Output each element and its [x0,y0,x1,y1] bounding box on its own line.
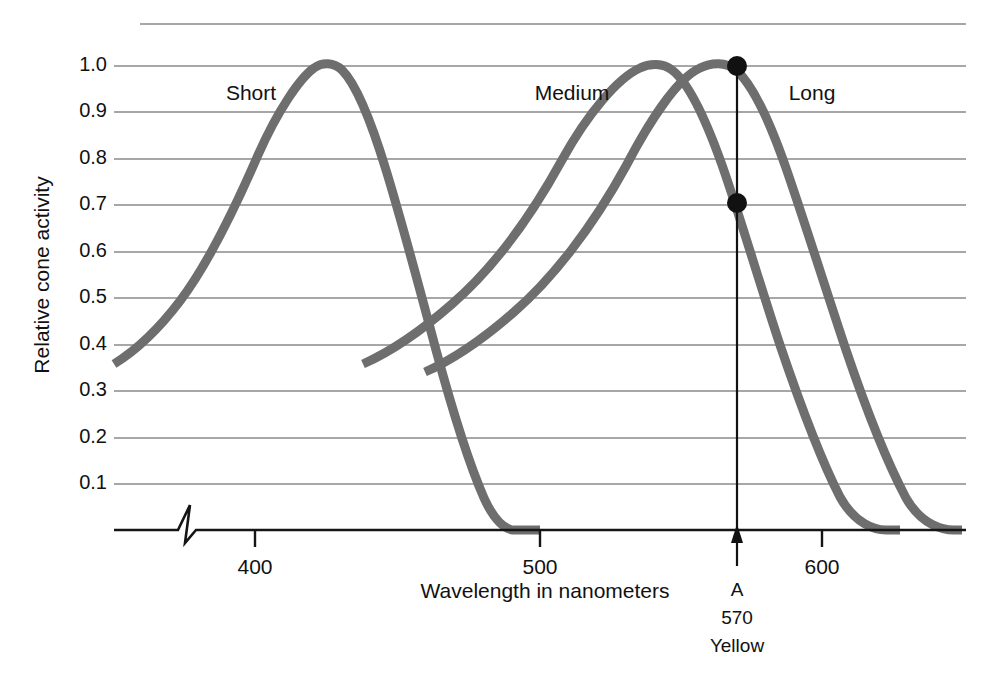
cone-activity-chart: 1.0 0.9 0.8 0.7 0.6 0.5 0.4 0.3 0.2 0.1 … [0,0,993,680]
curve-label-short: Short [226,81,276,104]
annotation-color-name: Yellow [710,635,765,656]
y-tick-label-0.3: 0.3 [79,378,107,400]
y-tick-label-1.0: 1.0 [79,53,107,75]
y-tick-label-0.2: 0.2 [79,425,107,447]
curve-medium [363,64,900,530]
curve-long [425,64,962,530]
y-tick-label-0.9: 0.9 [79,99,107,121]
y-tick-label-0.8: 0.8 [79,146,107,168]
y-tick-label-0.1: 0.1 [79,471,107,493]
x-axis-tick-labels: 400 500 600 [237,555,839,578]
y-tick-label-0.6: 0.6 [79,239,107,261]
y-tick-label-0.7: 0.7 [79,192,107,214]
marker-arrowhead-icon [731,524,743,543]
x-tick-label-600: 600 [804,555,839,578]
curve-label-medium: Medium [535,81,610,104]
y-tick-label-0.4: 0.4 [79,332,107,354]
y-axis-tick-labels: 1.0 0.9 0.8 0.7 0.6 0.5 0.4 0.3 0.2 0.1 [79,53,107,493]
curve-label-long: Long [789,81,836,104]
y-axis-title: Relative cone activity [30,176,53,374]
figure-container: 1.0 0.9 0.8 0.7 0.6 0.5 0.4 0.3 0.2 0.1 … [0,0,993,680]
annotation-wavelength: 570 [721,607,753,628]
x-tick-label-400: 400 [237,555,272,578]
marker-dot-long-1.0 [727,56,747,76]
x-tick-label-500: 500 [522,555,557,578]
curve-short [114,64,540,530]
annotation-letter: A [731,579,744,600]
y-tick-label-0.5: 0.5 [79,285,107,307]
x-axis-title: Wavelength in nanometers [420,579,669,602]
cone-curves [114,64,962,530]
marker-dot-medium-0.7 [727,193,747,213]
